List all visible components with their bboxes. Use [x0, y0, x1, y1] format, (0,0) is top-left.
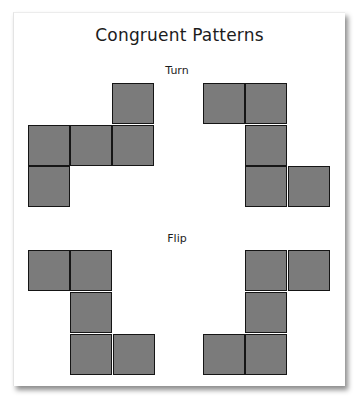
square-tile	[112, 83, 154, 124]
square-tile	[288, 250, 330, 291]
square-tile	[203, 334, 245, 375]
square-tile	[245, 334, 287, 375]
section-label-turn: Turn	[0, 64, 354, 77]
diagram-title: Congruent Patterns	[14, 25, 345, 45]
square-tile	[70, 334, 112, 375]
square-tile	[288, 166, 330, 207]
square-tile	[112, 125, 154, 166]
square-tile	[28, 125, 70, 166]
section-label-flip: Flip	[0, 232, 354, 245]
square-tile	[70, 125, 112, 166]
square-tile	[70, 250, 112, 291]
square-tile	[245, 166, 287, 207]
square-tile	[245, 83, 287, 124]
square-tile	[245, 125, 287, 166]
square-tile	[245, 292, 287, 333]
square-tile	[28, 250, 70, 291]
square-tile	[245, 250, 287, 291]
square-tile	[70, 292, 112, 333]
square-tile	[28, 166, 70, 207]
square-tile	[113, 334, 155, 375]
square-tile	[203, 83, 245, 124]
